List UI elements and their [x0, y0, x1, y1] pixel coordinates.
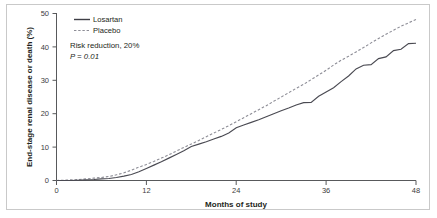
legend-label-placebo: Placebo	[93, 26, 120, 35]
legend: Losartan Placebo	[74, 15, 123, 35]
axes-group	[57, 13, 417, 181]
chart-svg: 50 40 30 20 10 0 0 12 24 36 48 Months of…	[0, 0, 437, 218]
figure-container: 50 40 30 20 10 0 0 12 24 36 48 Months of…	[0, 0, 437, 218]
x-tick-label-36: 36	[322, 186, 330, 195]
x-tick-label-12: 12	[142, 186, 150, 195]
y-tick-label-10: 10	[41, 143, 49, 152]
x-ticks-group: 0 12 24 36 48	[54, 181, 420, 196]
legend-label-losartan: Losartan	[93, 15, 123, 24]
annotation-risk-reduction: Risk reduction, 20%	[70, 41, 139, 50]
x-axis-title: Months of study	[205, 200, 267, 209]
y-ticks-group: 50 40 30 20 10 0	[41, 9, 57, 185]
y-tick-label-40: 40	[41, 43, 49, 52]
series-line-losartan	[57, 43, 417, 180]
y-tick-label-20: 20	[41, 109, 49, 118]
y-tick-label-0: 0	[45, 176, 49, 185]
x-tick-label-48: 48	[412, 186, 420, 195]
y-tick-label-30: 30	[41, 76, 49, 85]
y-tick-label-50: 50	[41, 9, 49, 18]
annotation-p-value: P = 0.01	[70, 52, 99, 61]
x-tick-label-24: 24	[232, 186, 240, 195]
x-tick-label-0: 0	[54, 186, 58, 195]
annotations: Risk reduction, 20% P = 0.01	[70, 41, 139, 61]
y-axis-title: End-stage renal disease or death (%)	[25, 27, 34, 167]
